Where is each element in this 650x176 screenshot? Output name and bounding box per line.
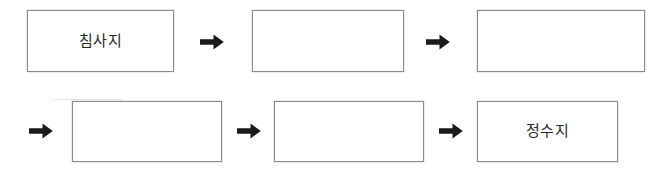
- flow-node-3[interactable]: [477, 10, 645, 72]
- right-arrow-icon: [199, 31, 225, 53]
- flow-node-6-label: 정수지: [526, 124, 570, 139]
- right-arrow-icon: [438, 120, 464, 142]
- flow-node-1[interactable]: 침사지: [27, 10, 174, 72]
- right-arrow-icon: [425, 31, 451, 53]
- right-arrow-icon: [28, 120, 54, 142]
- flow-node-5[interactable]: [274, 101, 424, 162]
- scan-artifact-line: [53, 99, 123, 100]
- flow-node-6[interactable]: 정수지: [477, 101, 618, 162]
- flow-node-2[interactable]: [252, 10, 404, 72]
- process-flow-diagram: 침사지 정수지: [0, 0, 650, 176]
- right-arrow-icon: [236, 120, 262, 142]
- flow-node-4[interactable]: [72, 101, 222, 162]
- flow-node-1-label: 침사지: [79, 34, 123, 49]
